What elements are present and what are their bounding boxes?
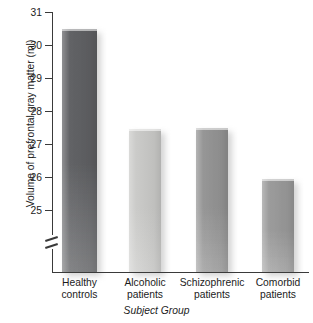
bar-face xyxy=(262,179,294,272)
category-label-3: Comorbidpatients xyxy=(233,277,313,302)
bar-top-highlight xyxy=(262,179,294,181)
bar-top-highlight xyxy=(196,128,228,130)
category-label-line: patients xyxy=(194,289,230,300)
category-label-line: patients xyxy=(260,289,296,300)
y-tick-label-29: 29 xyxy=(20,78,42,79)
bar-top-highlight xyxy=(62,29,97,31)
y-tick-31 xyxy=(45,12,52,13)
category-label-line: controls xyxy=(61,289,97,300)
y-tick-label-31: 31 xyxy=(20,12,42,13)
y-tick-29 xyxy=(45,78,52,79)
y-tick-27 xyxy=(45,144,52,145)
bar-face xyxy=(196,128,228,273)
x-axis-line xyxy=(52,272,309,273)
category-label-line: patients xyxy=(127,289,163,300)
bar-0[interactable] xyxy=(62,29,97,273)
category-label-line: Healthy xyxy=(62,277,97,288)
y-tick-label-30: 30 xyxy=(20,45,42,46)
y-tick-28 xyxy=(45,111,52,112)
y-tick-label-27: 27 xyxy=(20,144,42,145)
bar-1[interactable] xyxy=(129,129,161,272)
bar-chart: Volume of prefrontal gray matter (ml) 25… xyxy=(0,0,313,323)
bar-3[interactable] xyxy=(262,179,294,272)
category-label-line: Alcoholic xyxy=(124,277,165,288)
y-tick-label-25: 25 xyxy=(20,210,42,211)
y-tick-25 xyxy=(45,210,52,211)
y-tick-label-28: 28 xyxy=(20,111,42,112)
bar-2[interactable] xyxy=(196,128,228,273)
bar-face xyxy=(62,29,97,273)
category-label-line: Comorbid xyxy=(256,277,301,288)
y-tick-30 xyxy=(45,45,52,46)
y-tick-label-26: 26 xyxy=(20,177,42,178)
y-tick-26 xyxy=(45,177,52,178)
x-axis-title: Subject Group xyxy=(0,305,313,316)
bar-top-highlight xyxy=(129,129,161,131)
plot-area xyxy=(52,12,309,272)
bar-face xyxy=(129,129,161,272)
